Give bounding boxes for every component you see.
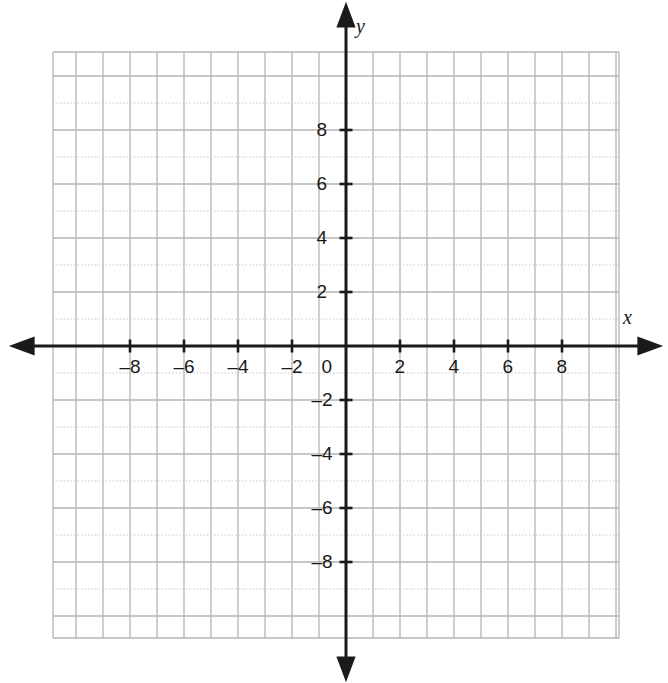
x-tick-label: 8 [557,356,568,378]
y-tick-label: 4 [317,227,328,249]
x-tick-label: 4 [449,356,460,378]
y-tick-label: –8 [312,551,333,573]
x-tick-label: –8 [120,356,141,378]
x-tick-label: –2 [282,356,303,378]
coordinate-plane-figure: –8–6–4–22468–8–6–4–224680 x y [0,0,668,683]
x-tick-label: –4 [228,356,249,378]
x-axis-label: x [623,306,632,329]
coordinate-grid-svg [0,0,668,683]
y-tick-label: –4 [312,443,333,465]
y-tick-label: 8 [317,119,328,141]
y-axis-label: y [356,15,365,38]
x-tick-label: –6 [174,356,195,378]
y-tick-label: 6 [317,173,328,195]
y-tick-label: –6 [312,497,333,519]
y-tick-label: –2 [312,389,333,411]
axes [31,24,641,660]
origin-label: 0 [322,356,333,378]
x-tick-label: 6 [503,356,514,378]
x-tick-label: 2 [395,356,406,378]
y-tick-label: 2 [317,281,328,303]
